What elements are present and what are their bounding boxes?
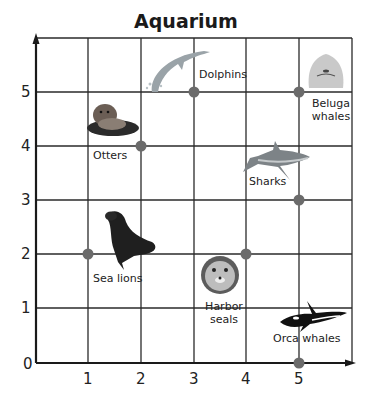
point-otters — [136, 141, 147, 152]
label-otters: Otters — [93, 149, 127, 162]
harbor-seal-icon — [201, 256, 239, 294]
point-beluga-whales — [294, 87, 305, 98]
x-tick-3: 3 — [189, 370, 199, 388]
label-harbor-seals: Harbor seals — [204, 300, 244, 326]
label-sharks: Sharks — [249, 175, 286, 188]
y-tick-1: 1 — [21, 299, 31, 317]
y-tick-4: 4 — [21, 137, 31, 155]
sea-lion-icon — [105, 211, 155, 270]
label-sea-lions: Sea lions — [93, 272, 143, 285]
label-harbor-line1: Harbor — [204, 300, 244, 313]
x-tick-2: 2 — [136, 370, 146, 388]
x-tick-4: 4 — [241, 370, 251, 388]
beluga-whale-icon — [309, 54, 344, 88]
y-tick-5: 5 — [21, 83, 31, 101]
label-beluga-line1: Beluga — [311, 97, 351, 110]
x-tick-5: 5 — [294, 370, 304, 388]
aquarium-coordinate-grid: Aquarium — [0, 0, 372, 402]
label-harbor-line2: seals — [204, 313, 244, 326]
label-orca-whales: Orca whales — [273, 332, 341, 345]
point-sharks — [294, 195, 305, 206]
origin-label: 0 — [23, 355, 33, 373]
orca-icon — [280, 301, 347, 332]
point-orca-whales — [294, 358, 305, 369]
point-dolphins — [189, 87, 200, 98]
y-tick-3: 3 — [21, 191, 31, 209]
point-harbor-seals — [241, 249, 252, 260]
y-tick-2: 2 — [21, 245, 31, 263]
point-sea-lions — [83, 249, 94, 260]
label-beluga-line2: whales — [311, 110, 351, 123]
label-beluga-whales: Beluga whales — [311, 97, 351, 123]
x-axis-arrow-icon — [345, 360, 356, 367]
x-tick-1: 1 — [83, 370, 93, 388]
label-dolphins: Dolphins — [199, 68, 247, 81]
otter-icon — [87, 104, 139, 136]
